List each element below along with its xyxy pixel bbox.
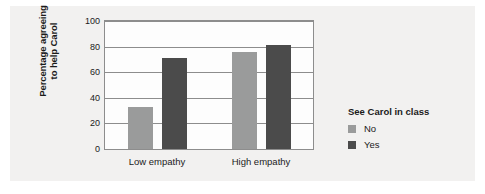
y-tick-label: 100	[85, 16, 100, 26]
bar-yes[interactable]	[266, 45, 291, 149]
bar-yes[interactable]	[162, 58, 187, 149]
y-tick-label: 40	[90, 93, 100, 103]
plot-area: 020406080100 Low empathyHigh empathy	[104, 20, 314, 150]
bar-no[interactable]	[232, 52, 257, 149]
y-tick-label: 80	[90, 42, 100, 52]
bars-layer	[105, 21, 313, 149]
bar-no[interactable]	[128, 107, 153, 149]
legend-item-no[interactable]: No	[348, 123, 468, 134]
legend-entries: NoYes	[348, 123, 468, 150]
legend-title: See Carol in class	[348, 106, 468, 117]
y-axis-title: Percentage agreeing to help Carol	[31, 0, 65, 111]
legend-item-yes[interactable]: Yes	[348, 139, 468, 150]
y-axis-title-line-1: Percentage agreeing	[37, 5, 49, 97]
y-tick-label: 60	[90, 67, 100, 77]
legend: See Carol in class NoYes	[348, 106, 468, 155]
bar-group	[105, 21, 209, 149]
chart-figure: Percentage agreeing to help Carol 020406…	[10, 6, 475, 181]
legend-swatch-icon	[348, 141, 356, 149]
legend-label: Yes	[364, 139, 380, 150]
y-tick-label: 20	[90, 118, 100, 128]
x-axis-label: Low empathy	[129, 156, 186, 167]
x-axis-label: High empathy	[232, 156, 291, 167]
y-tick-label: 0	[95, 144, 100, 154]
legend-label: No	[364, 123, 376, 134]
y-axis-title-line-2: to help Carol	[48, 23, 60, 80]
bar-group	[209, 21, 313, 149]
legend-swatch-icon	[348, 125, 356, 133]
